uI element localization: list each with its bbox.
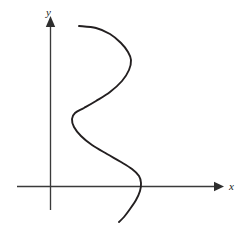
function-curve [72,26,141,222]
graph-svg: y x [0,0,247,238]
y-axis-label: y [45,6,51,18]
graph-figure: y x [0,0,247,238]
x-axis-arrowhead [214,182,224,191]
x-axis-label: x [228,180,234,192]
